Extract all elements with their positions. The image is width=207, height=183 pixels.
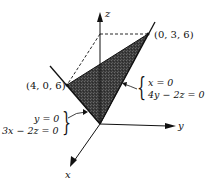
y-axis	[100, 124, 168, 126]
x-axis-label: x	[65, 170, 71, 180]
y-axis-label: y	[178, 121, 184, 131]
z-axis-label: z	[105, 9, 110, 19]
equation-x-equals-0: x = 0	[148, 77, 173, 88]
brace-right: {	[137, 74, 146, 100]
brace-left: }	[62, 109, 71, 135]
point-label-4-0-6: (4, 0, 6)	[26, 81, 66, 91]
equation-3x-minus-2z: 3x − 2z = 0	[2, 125, 59, 136]
equation-4y-minus-2z: 4y − 2z = 0	[148, 89, 205, 100]
point-label-0-3-6: (0, 3, 6)	[154, 30, 194, 40]
diagram: z y x (0, 3, 6) (4, 0, 6) { x = 0 4y − 2…	[0, 0, 207, 183]
equation-y-equals-0: y = 0	[34, 113, 59, 124]
point-0-3-6-marker	[147, 33, 150, 36]
z-axis-arrowhead	[97, 12, 103, 22]
y-axis-arrowhead	[165, 123, 176, 129]
x-axis	[74, 124, 100, 161]
